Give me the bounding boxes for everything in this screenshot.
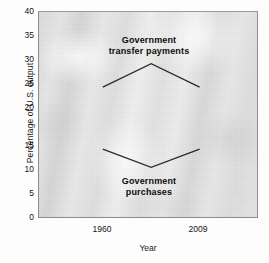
- annotation-purchases-line2: purchases: [61, 187, 237, 198]
- line-government-purchases: [103, 149, 200, 167]
- line-government-transfer-payments: [103, 64, 200, 87]
- y-tick-30: 30: [16, 55, 34, 64]
- y-tick-35: 35: [16, 31, 34, 40]
- y-tick-5: 5: [16, 189, 34, 198]
- y-tick-40: 40: [16, 7, 34, 16]
- annotation-government-purchases: Government purchases: [61, 176, 237, 199]
- y-tick-10: 10: [16, 165, 34, 174]
- y-axis-tick-labels: 40 35 30 25 20 15 10 5 0: [14, 0, 34, 263]
- annotation-transfer-line1: Government: [61, 35, 237, 46]
- plot-area: Government transfer payments Government …: [38, 11, 258, 218]
- y-tick-20: 20: [16, 103, 34, 112]
- x-tick-2009: 2009: [178, 224, 218, 234]
- y-tick-0: 0: [16, 213, 34, 222]
- x-axis-title: Year: [38, 243, 258, 253]
- annotation-transfer-line2: transfer payments: [61, 46, 237, 57]
- y-tick-25: 25: [16, 79, 34, 88]
- y-tick-15: 15: [16, 141, 34, 150]
- x-tick-1960: 1960: [82, 224, 122, 234]
- annotation-purchases-line1: Government: [61, 176, 237, 187]
- annotation-government-transfer-payments: Government transfer payments: [61, 35, 237, 58]
- chart-figure: Percentage of U.S. output 40 35 30 25 20…: [0, 0, 269, 263]
